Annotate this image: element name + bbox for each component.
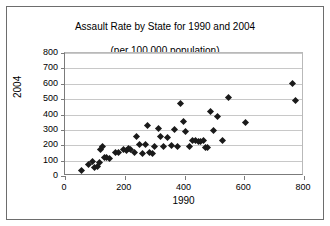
x-tick-mark <box>244 176 245 180</box>
scatter-point <box>219 137 226 144</box>
y-tick-label: 400 <box>18 110 58 119</box>
x-tick-label: 400 <box>164 183 204 192</box>
gridline <box>65 68 302 69</box>
y-tick-mark <box>61 161 65 162</box>
plot-area <box>64 52 303 175</box>
scatter-point <box>131 149 138 156</box>
y-tick-label: 500 <box>18 94 58 103</box>
x-tick-mark <box>304 176 305 180</box>
y-tick-mark <box>61 115 65 116</box>
chart-screenshot: Assault Rate by State for 1990 and 2004 … <box>0 0 330 226</box>
y-tick-mark <box>61 53 65 54</box>
scatter-point <box>289 80 296 87</box>
y-tick-label: 700 <box>18 63 58 72</box>
y-tick-mark <box>61 68 65 69</box>
scatter-point <box>174 142 181 149</box>
y-tick-mark <box>61 130 65 131</box>
x-tick-mark <box>65 176 66 180</box>
y-tick-label: 100 <box>18 156 58 165</box>
scatter-point <box>78 167 85 174</box>
chart-title-line-1: Assault Rate by State for 1990 and 2004 <box>75 21 255 32</box>
y-tick-mark <box>61 99 65 100</box>
scatter-point <box>210 127 217 134</box>
y-tick-label: 0 <box>18 171 58 180</box>
x-tick-mark <box>185 176 186 180</box>
y-tick-label: 200 <box>18 140 58 149</box>
x-tick-label: 800 <box>283 183 323 192</box>
scatter-point <box>180 118 187 125</box>
scatter-point <box>242 119 249 126</box>
y-tick-label: 300 <box>18 125 58 134</box>
y-tick-mark <box>61 84 65 85</box>
gridline <box>65 53 302 54</box>
x-axis-title: 1990 <box>64 196 303 206</box>
scatter-point <box>139 150 146 157</box>
scatter-point <box>144 122 151 129</box>
scatter-point <box>133 133 140 140</box>
x-tick-mark <box>125 176 126 180</box>
y-tick-mark <box>61 145 65 146</box>
scatter-point <box>171 126 178 133</box>
x-tick-label: 200 <box>104 183 144 192</box>
scatter-point <box>164 134 171 141</box>
scatter-point <box>160 142 167 149</box>
gridline <box>65 115 302 116</box>
chart-title: Assault Rate by State for 1990 and 2004 … <box>14 9 316 57</box>
gridline <box>65 84 302 85</box>
gridline <box>65 99 302 100</box>
scatter-point <box>225 94 232 101</box>
y-tick-label: 600 <box>18 79 58 88</box>
x-tick-label: 600 <box>223 183 263 192</box>
x-tick-label: 0 <box>44 183 84 192</box>
scatter-point <box>142 141 149 148</box>
scatter-point <box>291 97 298 104</box>
scatter-point <box>177 100 184 107</box>
y-tick-label: 800 <box>18 48 58 57</box>
